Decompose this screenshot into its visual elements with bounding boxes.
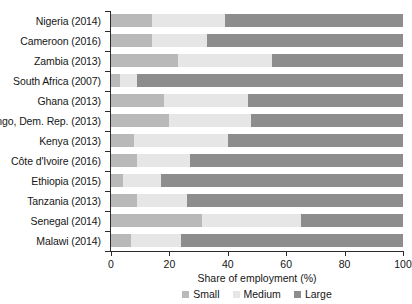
y-axis-category-label: Congo, Dem. Rep. (2013) (0, 111, 106, 131)
bar-segment-small (111, 174, 123, 187)
bar-row (111, 51, 403, 71)
bar-row (111, 31, 403, 51)
stacked-bar (111, 14, 403, 27)
y-axis-category-label: South Africa (2007) (0, 71, 106, 91)
bar-segment-large (187, 194, 403, 207)
y-axis-category-label: Nigeria (2014) (0, 11, 106, 31)
bar-segment-medium (137, 154, 190, 167)
y-axis-tick (105, 51, 110, 52)
legend-swatch-small (182, 291, 189, 298)
stacked-bar (111, 74, 403, 87)
bar-segment-small (111, 94, 164, 107)
y-axis-category-label: Zambia (2013) (0, 51, 106, 71)
stacked-bar (111, 94, 403, 107)
y-axis-tick (105, 231, 110, 232)
stacked-bar (111, 214, 403, 227)
legend-swatch-large (294, 291, 301, 298)
bar-segment-small (111, 114, 169, 127)
y-axis-category-label: Ghana (2013) (0, 91, 106, 111)
bar-row (111, 71, 403, 91)
bar-segment-large (161, 174, 403, 187)
stacked-bar (111, 54, 403, 67)
y-axis-tick (105, 31, 110, 32)
stacked-bar (111, 194, 403, 207)
bar-segment-small (111, 154, 137, 167)
bar-segment-medium (123, 174, 161, 187)
bar-row (111, 231, 403, 251)
y-axis-tick (105, 171, 110, 172)
x-axis-tick-label: 20 (164, 258, 176, 270)
y-axis-category-label: Côte d'Ivoire (2016) (0, 151, 106, 171)
bar-row (111, 111, 403, 131)
legend-item: Medium (233, 288, 281, 300)
chart-legend: SmallMediumLarge (111, 288, 403, 300)
y-axis-category-label: Senegal (2014) (0, 211, 106, 231)
bar-row (111, 131, 403, 151)
bar-segment-small (111, 214, 202, 227)
legend-label: Large (305, 288, 332, 300)
bar-segment-medium (178, 54, 271, 67)
legend-label: Small (193, 288, 219, 300)
x-axis-tick (169, 251, 170, 256)
stacked-bar (111, 174, 403, 187)
y-axis-tick (105, 211, 110, 212)
y-axis-tick (105, 111, 110, 112)
bar-segment-small (111, 194, 137, 207)
bar-segment-large (301, 214, 403, 227)
stacked-bar (111, 234, 403, 247)
y-axis-tick (105, 131, 110, 132)
bar-segment-medium (169, 114, 251, 127)
bar-row (111, 11, 403, 31)
x-axis-tick-label: 100 (394, 258, 412, 270)
y-axis-tick (105, 91, 110, 92)
stacked-bar-chart: Nigeria (2014)Cameroon (2016)Zambia (201… (0, 0, 412, 304)
x-axis-tick-label: 60 (280, 258, 292, 270)
y-axis-tick (105, 151, 110, 152)
stacked-bar (111, 114, 403, 127)
x-axis-tick-label: 0 (108, 258, 114, 270)
x-axis-tick (228, 251, 229, 256)
bar-segment-large (207, 34, 403, 47)
bar-segment-medium (120, 74, 138, 87)
bar-segment-small (111, 14, 152, 27)
x-axis-tick (403, 251, 404, 256)
bar-segment-large (228, 134, 403, 147)
bar-segment-small (111, 54, 178, 67)
y-axis-category-label: Cameroon (2016) (0, 31, 106, 51)
x-axis-line (110, 251, 404, 252)
bar-segment-medium (137, 194, 187, 207)
y-axis-category-label: Malawi (2014) (0, 231, 106, 251)
x-axis-tick-label: 80 (339, 258, 351, 270)
x-axis-tick-label: 40 (222, 258, 234, 270)
y-axis-tick (105, 11, 110, 12)
bar-segment-small (111, 134, 134, 147)
stacked-bar (111, 34, 403, 47)
y-axis-category-labels: Nigeria (2014)Cameroon (2016)Zambia (201… (0, 11, 106, 251)
bar-segment-medium (152, 34, 207, 47)
y-axis-category-label: Ethiopia (2015) (0, 171, 106, 191)
bar-segment-large (225, 14, 403, 27)
bar-segment-small (111, 74, 120, 87)
bar-row (111, 211, 403, 231)
y-axis-category-label: Kenya (2013) (0, 131, 106, 151)
bar-segment-large (190, 154, 403, 167)
bar-row (111, 191, 403, 211)
bar-segment-small (111, 34, 152, 47)
y-axis-category-label: Tanzania (2013) (0, 191, 106, 211)
legend-label: Medium (244, 288, 281, 300)
bar-row (111, 91, 403, 111)
x-axis-tick (111, 251, 112, 256)
y-axis-tick (105, 191, 110, 192)
bar-segment-medium (164, 94, 249, 107)
bar-segment-small (111, 234, 131, 247)
bar-segment-large (181, 234, 403, 247)
plot-area (111, 11, 403, 251)
y-axis-tick (105, 251, 110, 252)
legend-item: Large (294, 288, 332, 300)
x-axis-tick (286, 251, 287, 256)
x-axis-tick (345, 251, 346, 256)
bar-segment-medium (134, 134, 227, 147)
legend-item: Small (182, 288, 219, 300)
bar-segment-medium (131, 234, 181, 247)
bar-segment-large (137, 74, 403, 87)
